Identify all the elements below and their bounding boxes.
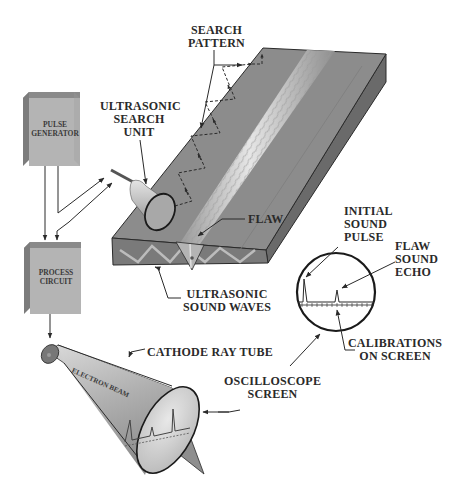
process-circuit-line-2: CIRCUIT <box>31 277 81 286</box>
oscilloscope-line-2: SCREEN <box>224 388 321 401</box>
calibrations-line-2: ON SCREEN <box>348 350 442 363</box>
process-circuit-line-1: PROCESS <box>31 268 81 277</box>
ultrasonic-inspection-diagram <box>0 0 459 497</box>
crt-text: CATHODE RAY TUBE <box>147 346 273 359</box>
search-pattern-label: SEARCH PATTERN <box>188 24 245 50</box>
initial-sound-pulse-label: INITIAL SOUND PULSE <box>344 205 393 244</box>
calibrations-on-screen-label: CALIBRATIONS ON SCREEN <box>348 337 442 363</box>
ultrasonic-sound-waves-label: ULTRASONIC SOUND WAVES <box>183 288 271 314</box>
pulse-generator-label: PULSE GENERATOR <box>30 120 80 138</box>
flaw-label: FLAW <box>248 213 283 226</box>
pulse-generator-line-1: PULSE <box>30 120 80 129</box>
cathode-ray-tube-label: CATHODE RAY TUBE <box>147 346 273 359</box>
oscilloscope-screen-detail <box>297 253 375 331</box>
oscilloscope-screen-label: OSCILLOSCOPE SCREEN <box>224 375 321 401</box>
cathode-ray-tube <box>38 341 212 483</box>
pulse-generator-line-2: GENERATOR <box>30 129 80 138</box>
sound-waves-line-2: SOUND WAVES <box>183 301 271 314</box>
flaw-marker <box>190 256 194 260</box>
flaw-text: FLAW <box>248 213 283 226</box>
ultrasonic-search-unit-label: ULTRASONIC SEARCH UNIT <box>100 100 178 139</box>
initial-pulse-line-3: PULSE <box>344 231 393 244</box>
search-unit-line-3: UNIT <box>100 126 178 139</box>
flaw-echo-line-3: ECHO <box>395 266 438 279</box>
process-circuit-label: PROCESS CIRCUIT <box>31 268 81 286</box>
search-pattern-line-2: PATTERN <box>188 37 245 50</box>
flaw-sound-echo-label: FLAW SOUND ECHO <box>395 240 438 279</box>
